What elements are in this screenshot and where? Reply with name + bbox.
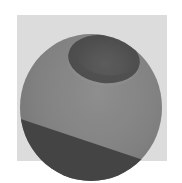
- image-canvas: [0, 0, 182, 183]
- sphere: [20, 34, 162, 181]
- sphere-lower-band: [20, 112, 162, 181]
